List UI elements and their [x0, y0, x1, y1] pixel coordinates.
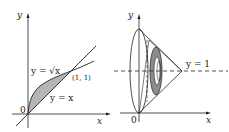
axis-of-rotation-label: y = 1: [185, 59, 210, 69]
solid-of-revolution-figure: y x 0 y = 1: [114, 0, 229, 132]
y-axis-arrow-icon: [27, 13, 30, 18]
region-plot: y x 0 y = √x y = x (1, 1): [0, 0, 115, 132]
line-y-equals-x-label: y = x: [49, 93, 73, 103]
region-between-curves-figure: y x 0 y = √x y = x (1, 1): [0, 0, 115, 132]
x-axis-label: x: [206, 115, 211, 125]
x-axis-arrow-icon: [106, 113, 111, 116]
y-axis-label: y: [16, 10, 23, 20]
x-axis-label: x: [97, 116, 102, 126]
curve-sqrt-label: y = √x: [30, 66, 60, 76]
solid-plot: y x 0 y = 1: [114, 0, 229, 132]
origin-label: 0: [131, 115, 137, 125]
origin-label: 0: [20, 105, 26, 115]
y-axis-arrow-icon: [138, 14, 141, 19]
y-axis-label: y: [127, 10, 134, 20]
intersection-point-label: (1, 1): [72, 74, 91, 82]
